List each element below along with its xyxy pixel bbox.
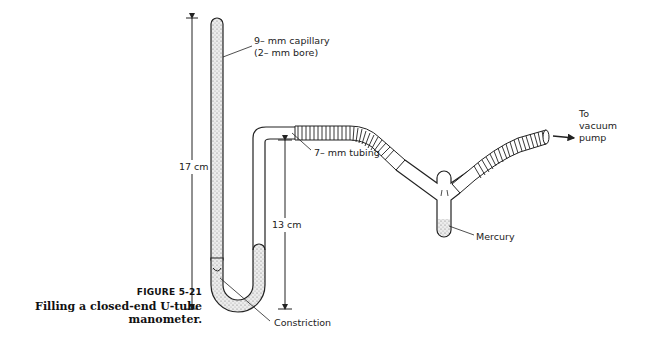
- label-tubing: 7– mm tubing: [314, 147, 380, 158]
- label-13cm: 13 cm: [272, 219, 302, 230]
- manometer-diagram: 17 cm 13 cm: [0, 0, 646, 347]
- figure-number: FIGURE 5-21: [137, 287, 202, 297]
- to-pump-arrow-icon: [553, 136, 574, 138]
- figure-caption: Filling a closed-end U-tube manometer.: [2, 300, 202, 326]
- y-connector: [396, 160, 470, 237]
- label-mercury: Mercury: [476, 231, 515, 242]
- label-pump-vacuum: vacuum: [579, 120, 617, 131]
- label-capillary-bore: (2– mm bore): [254, 47, 318, 58]
- label-pump-pump: pump: [579, 132, 606, 143]
- label-pump-to: To: [578, 108, 589, 119]
- capillary-leader: [223, 46, 252, 57]
- mercury-leader: [449, 226, 474, 235]
- label-17cm: 17 cm: [179, 161, 209, 172]
- label-constriction: Constriction: [274, 317, 331, 328]
- label-capillary: 9– mm capillary: [254, 35, 330, 46]
- capillary-tube: [211, 18, 223, 260]
- mercury-reservoir: [438, 219, 450, 236]
- rubber-hose-right: [452, 130, 549, 193]
